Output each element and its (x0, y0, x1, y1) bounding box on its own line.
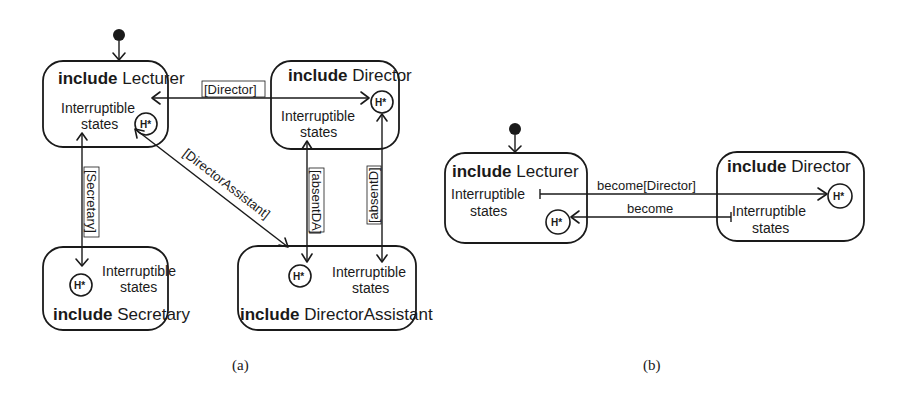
state-body-line2: states (300, 124, 337, 140)
initial-state-b (509, 123, 521, 135)
diagram-canvas: include Lecturer Interruptible states H*… (0, 0, 899, 396)
transition-become-b[interactable]: become (571, 201, 731, 223)
state-director-assistant-a[interactable]: H* Interruptible states include Director… (238, 246, 433, 330)
state-title: include Director (727, 157, 851, 176)
transition-absent-da-a[interactable]: [absentDA] (302, 141, 324, 262)
transition-label: become[Director] (597, 178, 696, 193)
state-title: include Director (288, 66, 412, 85)
diagram-b: include Lecturer Interruptible states H*… (445, 123, 864, 374)
state-body-line2: states (81, 116, 118, 132)
transition-label: [absentD] (366, 167, 381, 223)
initial-state-a (113, 29, 125, 41)
transition-label: [Director] (204, 82, 257, 97)
history-label: H* (375, 97, 386, 108)
caption-a: (a) (232, 357, 249, 374)
state-body-line1: Interruptible (102, 263, 176, 279)
state-body-line2: states (752, 220, 789, 236)
state-title: include DirectorAssistant (240, 305, 433, 324)
state-secretary-a[interactable]: H* Interruptible states include Secretar… (43, 247, 190, 330)
state-director-a[interactable]: include Director Interruptible states H* (271, 61, 412, 149)
diagram-a: include Lecturer Interruptible states H*… (43, 29, 433, 374)
state-title: include Lecturer (58, 69, 185, 88)
state-body-line1: Interruptible (332, 264, 406, 280)
state-director-b[interactable]: include Director Interruptible states H* (717, 152, 864, 241)
state-title: include Secretary (53, 305, 190, 324)
history-label: H* (551, 217, 562, 228)
transition-label: [absentDA] (309, 170, 324, 234)
state-body-line2: states (120, 279, 157, 295)
transition-secretary-a[interactable]: [Secretary] (76, 133, 99, 266)
transition-director-assistant-a[interactable]: [DirectorAssistant] (135, 129, 288, 247)
transition-label: [DirectorAssistant] (180, 145, 273, 221)
state-body-line2: states (470, 203, 507, 219)
history-label: H* (74, 280, 85, 291)
transition-label: [Secretary] (84, 170, 99, 233)
state-lecturer-b[interactable]: include Lecturer Interruptible states H* (445, 153, 587, 243)
transition-label: become (627, 201, 673, 216)
state-body-line1: Interruptible (61, 100, 135, 116)
history-label: H* (140, 119, 151, 130)
state-body-line1: Interruptible (732, 203, 806, 219)
state-body-line1: Interruptible (281, 108, 355, 124)
state-body-line1: Interruptible (451, 186, 525, 202)
history-label: H* (293, 271, 304, 282)
caption-b: (b) (643, 357, 661, 374)
state-body-line2: states (352, 280, 389, 296)
state-title: include Lecturer (452, 162, 579, 181)
history-label: H* (833, 191, 844, 202)
state-lecturer-a[interactable]: include Lecturer Interruptible states H* (43, 61, 185, 147)
